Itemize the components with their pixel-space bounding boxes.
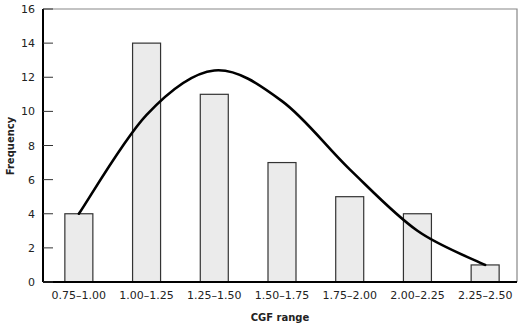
x-tick-label: 1.00–1.25 — [119, 289, 173, 302]
bars — [65, 43, 499, 282]
bar-1.75–2.00 — [336, 197, 364, 282]
x-tick-label: 2.00–2.25 — [390, 289, 444, 302]
y-tick-label: 4 — [28, 208, 35, 221]
y-tick-label: 2 — [28, 242, 35, 255]
x-tick-label: 1.50–1.75 — [255, 289, 309, 302]
y-tick-label: 14 — [21, 37, 35, 50]
x-axis-title: CGF range — [251, 312, 310, 323]
y-tick-label: 16 — [21, 3, 35, 16]
y-tick-label: 8 — [28, 140, 35, 153]
y-axis-ticks: 0246810121416 — [21, 3, 53, 289]
x-tick-label: 1.75–2.00 — [322, 289, 376, 302]
x-tick-label: 0.75–1.00 — [52, 289, 106, 302]
bar-0.75–1.00 — [65, 214, 93, 282]
bar-1.00–1.25 — [133, 43, 161, 282]
bar-1.50–1.75 — [268, 163, 296, 282]
histogram-chart: 0246810121416 0.75–1.001.00–1.251.25–1.5… — [0, 0, 523, 327]
y-tick-label: 6 — [28, 174, 35, 187]
x-axis-ticks: 0.75–1.001.00–1.251.25–1.501.50–1.751.75… — [52, 289, 513, 302]
y-axis-title: Frequency — [5, 116, 16, 175]
y-tick-label: 12 — [21, 71, 35, 84]
x-tick-label: 1.25–1.50 — [187, 289, 241, 302]
y-tick-label: 10 — [21, 105, 35, 118]
bar-1.25–1.50 — [200, 94, 228, 282]
y-tick-label: 0 — [28, 276, 35, 289]
bar-2.25–2.50 — [471, 265, 499, 282]
x-tick-label: 2.25–2.50 — [458, 289, 512, 302]
